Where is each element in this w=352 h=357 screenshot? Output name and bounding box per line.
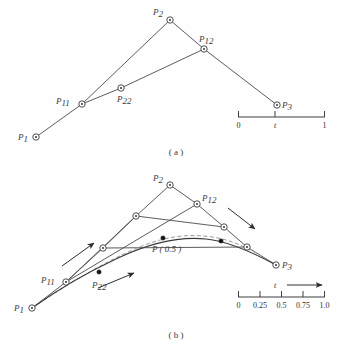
node-mid-lower-right-b <box>244 244 250 250</box>
curve-point-right-b <box>219 239 223 243</box>
panel-b-parameter-axis: 0 0.25 0.5 0.75 1.0 t <box>237 281 330 310</box>
axis-tick-label-1-a: 1 <box>323 121 327 130</box>
tangent-arrow-upper-b <box>62 243 94 266</box>
figure-canvas: P1 P11 P2 P22 P12 P3 <box>0 0 352 357</box>
node-mid-upper-b <box>133 213 139 219</box>
label-p22-b: P22 <box>91 280 107 292</box>
panel-a-polylines <box>36 20 277 137</box>
label-p11-b: P11 <box>40 275 55 287</box>
node-p11-a <box>79 101 85 107</box>
inner-chord-2-b <box>136 216 224 227</box>
panel-a-labels: P1 P11 P2 P22 P12 P3 <box>17 7 293 144</box>
axis-tick-label-025-b: 0.25 <box>253 301 267 310</box>
node-p2-a <box>167 17 173 23</box>
node-p3-b <box>273 262 279 268</box>
label-p11-a: P11 <box>55 96 70 108</box>
node-p3-a <box>274 102 280 108</box>
node-p1-a <box>33 134 39 140</box>
chord-p11-p12-a <box>82 49 204 104</box>
label-p3-a: P3 <box>281 100 293 112</box>
node-p12-a <box>201 46 207 52</box>
axis-param-label-b: t <box>274 281 277 290</box>
node-mid-left-b <box>100 245 106 251</box>
axis-tick-label-0-b: 0 <box>237 301 241 310</box>
axis-tick-label-10-b: 1.0 <box>320 301 330 310</box>
label-p1-b: P1 <box>13 303 24 315</box>
panel-a: P1 P11 P2 P22 P12 P3 <box>17 7 327 157</box>
node-mid-right-b <box>221 224 227 230</box>
control-polygon-upper-a <box>36 20 277 137</box>
panel-a-parameter-axis: 0 t 1 <box>237 111 327 130</box>
curve-point-mid-b <box>161 236 165 240</box>
node-p12-b <box>194 201 200 207</box>
caption-panel-b: ( b ) <box>169 330 184 340</box>
label-p12-b: P12 <box>201 193 217 205</box>
panel-b-labels: P1 P11 P22 P2 P12 P3 P ( 0.5 ) <box>13 173 293 315</box>
label-p2-b: P2 <box>152 173 164 185</box>
node-p1-b <box>29 305 35 311</box>
figure-root: P1 P11 P2 P22 P12 P3 <box>0 0 352 357</box>
inner-chord-3-b <box>66 204 197 282</box>
label-p2-a: P2 <box>152 7 164 19</box>
axis-tick-label-0-a: 0 <box>237 121 241 130</box>
node-p11-b <box>63 279 69 285</box>
axis-tick-label-05-b: 0.5 <box>277 301 287 310</box>
label-point-at-half: P ( 0.5 ) <box>151 244 181 254</box>
caption-panel-a: ( a ) <box>169 147 184 157</box>
label-p1-a: P1 <box>17 132 28 144</box>
tangent-arrow-right-b <box>228 208 255 229</box>
label-p22-a: P22 <box>116 94 132 106</box>
label-p3-b: P3 <box>281 260 293 272</box>
axis-tick-label-t-a: t <box>274 121 277 130</box>
panel-b: P1 P11 P22 P2 P12 P3 P ( 0.5 ) <box>13 173 330 340</box>
axis-tick-label-075-b: 0.75 <box>296 301 310 310</box>
label-p12-a: P12 <box>198 34 214 46</box>
node-p22-a <box>118 85 124 91</box>
node-p22-b <box>97 270 101 274</box>
node-p2-b <box>167 182 173 188</box>
